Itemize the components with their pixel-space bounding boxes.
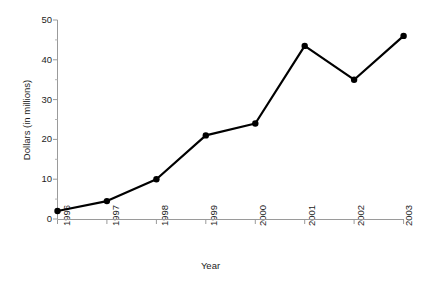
data-markers: [54, 33, 407, 215]
data-point-2002: [351, 77, 357, 83]
x-ticks: [58, 220, 404, 225]
data-point-2003: [400, 33, 406, 39]
data-point-2000: [252, 120, 258, 126]
plot-area: [0, 0, 421, 283]
data-line-series-1: [58, 36, 404, 211]
data-point-1998: [153, 176, 159, 182]
line-chart: Dollars (in millions) 50 40 30 20 10 0 1…: [0, 0, 421, 283]
data-point-1999: [203, 132, 209, 138]
data-point-2001: [302, 43, 308, 49]
data-point-1996: [54, 208, 60, 214]
data-point-1997: [104, 198, 110, 204]
